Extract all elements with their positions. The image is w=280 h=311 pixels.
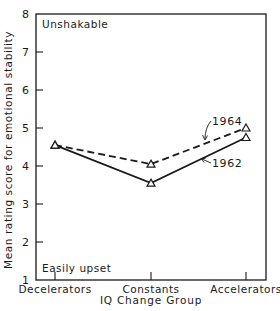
label-1962-text: 1962	[212, 157, 242, 170]
y-tick-label: 3	[22, 198, 29, 211]
line-chart: 12345678 DeceleratorsConstantsAccelerato…	[0, 0, 280, 311]
x-tick-label: Accelerators	[210, 283, 280, 295]
x-axis: DeceleratorsConstantsAccelerators	[18, 272, 280, 295]
arrow-1964-icon	[205, 121, 211, 139]
plot-frame	[36, 14, 266, 280]
x-axis-title: IQ Change Group	[100, 294, 202, 306]
y-tick-label: 5	[22, 122, 29, 135]
label-1962: 1962	[202, 157, 243, 170]
triangle-marker-icon	[51, 141, 59, 148]
label-1964: 1964	[203, 115, 243, 140]
y-tick-label: 8	[22, 8, 29, 21]
y-tick-label: 7	[22, 46, 29, 59]
annotation-unshakable: Unshakable	[42, 18, 108, 30]
triangle-marker-icon	[242, 134, 250, 141]
x-tick-label: Decelerators	[18, 283, 91, 295]
y-axis: 12345678	[22, 8, 43, 287]
triangle-marker-icon	[242, 124, 250, 131]
y-tick-label: 2	[22, 236, 29, 249]
y-tick-label: 4	[22, 160, 29, 173]
y-axis-title: Mean rating score for emotional stabilit…	[2, 31, 14, 269]
label-1964-text: 1964	[212, 115, 242, 128]
series-group	[51, 124, 250, 186]
annotation-easily-upset: Easily upset	[42, 262, 111, 274]
y-tick-label: 6	[22, 84, 29, 97]
